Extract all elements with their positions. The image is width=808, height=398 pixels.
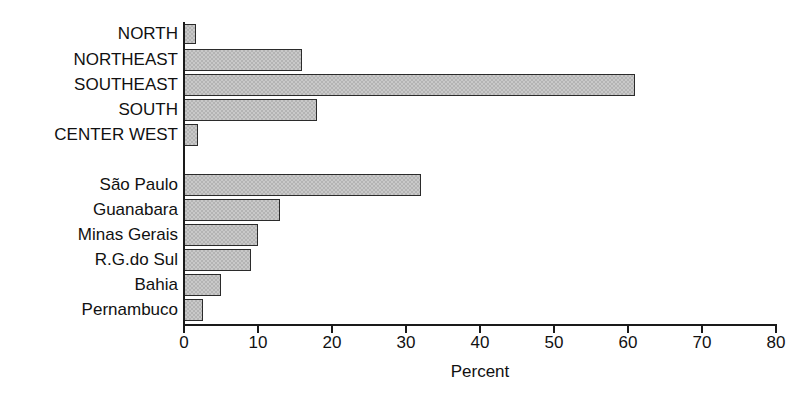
y-axis-line [183,22,185,325]
bar [184,199,280,221]
x-tick-label: 10 [249,334,268,351]
bar-row [184,74,776,96]
bar-row [184,49,776,71]
category-label: SOUTHEAST [2,76,178,93]
category-label: Minas Gerais [2,226,178,243]
x-tick-label: 40 [471,334,490,351]
category-label: CENTER WEST [2,126,178,143]
bar-row [184,99,776,121]
x-axis-title: Percent [0,362,808,382]
bar [184,174,421,196]
category-label: Guanabara [2,201,178,218]
bar-row [184,174,776,196]
x-tick-label: 70 [693,334,712,351]
x-tick [183,326,185,333]
bar [184,99,317,121]
category-label: Bahia [2,276,178,293]
category-label: São Paulo [2,176,178,193]
bar [184,124,198,146]
x-tick-label: 80 [767,334,786,351]
category-label: Pernambuco [2,301,178,318]
category-label: SOUTH [2,101,178,118]
x-tick [627,326,629,333]
bar-row [184,199,776,221]
bar-row [184,299,776,321]
x-tick [701,326,703,333]
bar [184,299,203,321]
category-label: NORTH [2,25,178,42]
x-tick [775,326,777,333]
x-tick [257,326,259,333]
category-label: R.G.do Sul [2,251,178,268]
category-axis-labels: NORTHNORTHEASTSOUTHEASTSOUTHCENTER WESTS… [0,0,178,398]
bar-row [184,124,776,146]
x-axis-title-text: Percent [451,362,510,382]
x-tick-label: 20 [323,334,342,351]
bar-row [184,249,776,271]
bar [184,274,221,296]
x-tick-label: 60 [619,334,638,351]
x-tick-label: 30 [397,334,416,351]
bar [184,249,251,271]
bar [184,224,258,246]
x-tick [479,326,481,333]
x-tick-label: 0 [179,334,188,351]
bar [184,24,196,44]
x-tick-label: 50 [545,334,564,351]
bar-row [184,24,776,44]
bar [184,49,302,71]
bar [184,74,635,96]
bar-chart: NORTHNORTHEASTSOUTHEASTSOUTHCENTER WESTS… [0,0,808,398]
category-label: NORTHEAST [2,51,178,68]
x-tick [331,326,333,333]
bar-row [184,224,776,246]
x-tick [553,326,555,333]
bar-row [184,274,776,296]
x-tick [405,326,407,333]
